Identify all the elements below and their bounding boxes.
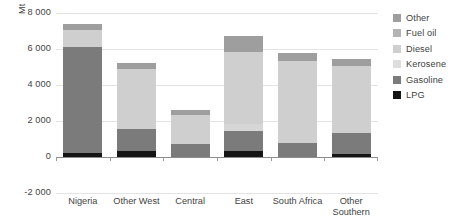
- bar-segment-gasoline[interactable]: [117, 129, 156, 151]
- x-tick-label: East: [217, 196, 271, 207]
- x-axis-tick-labels: NigeriaOther WestCentralEastSouth Africa…: [56, 196, 378, 223]
- bar-segment-diesel[interactable]: [278, 61, 317, 143]
- y-tick-label: 2 000: [0, 115, 51, 125]
- bar-segment-lpg[interactable]: [332, 154, 371, 157]
- legend-swatch-icon: [393, 91, 401, 99]
- bar-segment-gasoline[interactable]: [63, 47, 102, 153]
- legend-item[interactable]: Fuel oil: [393, 26, 461, 42]
- bar-segment-other[interactable]: [117, 63, 156, 69]
- x-tick-mark: [56, 157, 57, 161]
- gridline: [56, 85, 378, 86]
- y-tick-label: 4 000: [0, 79, 51, 89]
- x-tick-mark: [110, 157, 111, 161]
- bar-segment-gasoline[interactable]: [278, 143, 317, 157]
- bar-segment-other[interactable]: [224, 36, 263, 52]
- bar-column[interactable]: [224, 13, 263, 193]
- bar-segment-diesel[interactable]: [63, 30, 102, 47]
- x-tick-mark: [217, 157, 218, 161]
- bar-column[interactable]: [117, 13, 156, 193]
- gridline: [56, 121, 378, 122]
- x-tick-label: Nigeria: [56, 196, 110, 207]
- y-tick-label: 0: [0, 151, 51, 161]
- y-axis-tick-labels: 8 0006 0004 0002 0000-2 000: [0, 0, 51, 223]
- legend-swatch-icon: [393, 76, 401, 84]
- bar-segment-other[interactable]: [171, 110, 210, 115]
- x-tick-mark: [163, 157, 164, 161]
- y-tick-label: 6 000: [0, 43, 51, 53]
- y-tick-label: -2 000: [0, 187, 51, 197]
- legend-swatch-icon: [393, 45, 401, 53]
- legend-swatch-icon: [393, 60, 401, 68]
- legend-swatch-icon: [393, 29, 401, 37]
- x-tick-label: Other Southern: [324, 196, 378, 218]
- bar-segment-diesel[interactable]: [224, 52, 263, 124]
- legend-item[interactable]: Kerosene: [393, 57, 461, 73]
- x-tick-label: Central: [163, 196, 217, 207]
- bar-segment-diesel[interactable]: [117, 69, 156, 129]
- bar-column[interactable]: [278, 13, 317, 193]
- legend-item[interactable]: Other: [393, 10, 461, 26]
- y-tick-label: 8 000: [0, 7, 51, 17]
- bar-column[interactable]: [63, 13, 102, 193]
- plot-area: [56, 13, 378, 193]
- bar-segment-other[interactable]: [278, 53, 317, 61]
- legend-label: Diesel: [406, 44, 432, 54]
- x-tick-label: South Africa: [271, 196, 325, 207]
- bar-segment-other[interactable]: [63, 24, 102, 30]
- legend-item[interactable]: Diesel: [393, 41, 461, 57]
- bar-column[interactable]: [171, 13, 210, 193]
- x-tick-mark: [324, 157, 325, 161]
- gridline: [56, 193, 378, 194]
- bar-segment-gasoline[interactable]: [224, 131, 263, 151]
- legend-label: Gasoline: [406, 75, 443, 85]
- legend-item[interactable]: Gasoline: [393, 72, 461, 88]
- gridline: [56, 49, 378, 50]
- x-tick-label: Other West: [110, 196, 164, 207]
- legend-label: Other: [406, 13, 429, 23]
- bar-segment-kerosene[interactable]: [224, 124, 263, 130]
- bar-segment-other[interactable]: [332, 59, 371, 66]
- legend-item[interactable]: LPG: [393, 88, 461, 104]
- legend-label: Fuel oil: [406, 28, 436, 38]
- bar-segment-gasoline[interactable]: [171, 144, 210, 157]
- legend-label: LPG: [406, 90, 425, 100]
- bar-segment-lpg[interactable]: [117, 151, 156, 157]
- bar-segment-diesel[interactable]: [332, 66, 371, 133]
- x-tick-mark: [377, 157, 378, 161]
- stacked-bar-chart: Mt 8 0006 0004 0002 0000-2 000 NigeriaOt…: [0, 0, 461, 223]
- x-tick-mark: [271, 157, 272, 161]
- legend-swatch-icon: [393, 14, 401, 22]
- gridline: [56, 13, 378, 14]
- bar-segment-diesel[interactable]: [171, 115, 210, 145]
- legend-label: Kerosene: [406, 59, 446, 69]
- bar-segment-lpg[interactable]: [63, 153, 102, 157]
- bar-column[interactable]: [332, 13, 371, 193]
- bar-segment-gasoline[interactable]: [332, 133, 371, 154]
- chart-legend: OtherFuel oilDieselKeroseneGasolineLPG: [393, 10, 461, 103]
- bar-segment-lpg[interactable]: [224, 151, 263, 157]
